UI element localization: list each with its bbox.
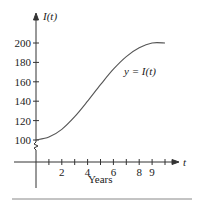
curve-label: y = I(t) <box>123 65 156 78</box>
y-tick-label: 140 <box>15 95 32 107</box>
axes <box>14 13 179 188</box>
y-tick-label: 120 <box>15 115 32 127</box>
x-axis-label: Years <box>88 173 113 185</box>
y-tick-label: 100 <box>15 134 32 146</box>
y-tick-label: 180 <box>15 56 32 68</box>
curve-i-of-t <box>36 43 165 140</box>
y-tick-label: 200 <box>15 37 32 49</box>
chart: 100120140160180200 24689 I(t) t Years y … <box>0 0 199 201</box>
x-tick-label: 9 <box>149 166 155 178</box>
y-tick-label: 160 <box>15 76 32 88</box>
y-axis-ticks: 100120140160180200 <box>15 37 40 146</box>
x-tick-label: 2 <box>59 166 65 178</box>
x-axis-symbol: t <box>183 156 187 168</box>
y-axis-label: I(t) <box>42 10 57 23</box>
x-tick-label: 8 <box>136 166 142 178</box>
